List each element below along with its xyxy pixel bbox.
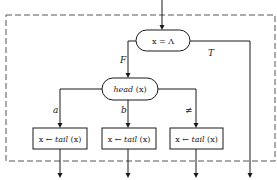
branch-label-a: a [53,105,58,115]
decision-head-x: head (x) [60,78,196,100]
branch-a: a x ← tail (x) [33,89,87,178]
true-branch-path: T [190,41,253,178]
decision-head-label: head (x) [113,85,146,94]
branch-label-not-equal: ≠ [185,105,193,115]
svg-text:x ← tail (x): x ← tail (x) [175,135,218,144]
flowchart-diagram: x = Λ T F head (x) a x ← tail (x) b x ← … [0,0,277,180]
false-branch-path: F [119,41,136,78]
branch-label-b: b [121,105,127,115]
decision-x-equals-lambda: x = Λ [136,30,190,51]
svg-text:x ← tail (x): x ← tail (x) [39,135,82,144]
false-label: F [119,55,127,65]
svg-text:x ← tail (x): x ← tail (x) [108,135,151,144]
true-label: T [208,48,215,58]
decision-top-label: x = Λ [152,37,174,46]
branch-not-equal: ≠ x ← tail (x) [170,89,223,178]
branch-b: b x ← tail (x) [102,100,156,178]
